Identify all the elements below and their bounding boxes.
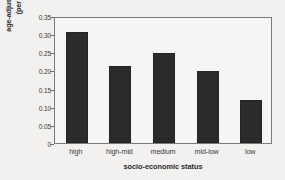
y-axis-tick-label: 0.05 bbox=[30, 122, 51, 129]
bar bbox=[66, 32, 88, 143]
y-axis-tick-label: 0.20 bbox=[30, 68, 51, 75]
bar bbox=[240, 100, 262, 143]
y-axis-title-line-2: (per 100,000) bbox=[14, 0, 24, 48]
x-axis-title: socio-economic status bbox=[54, 162, 272, 171]
y-axis-tick-label: 0.10 bbox=[30, 104, 51, 111]
bar bbox=[153, 53, 175, 143]
y-axis-tick-label: 0.35 bbox=[30, 14, 51, 21]
bar bbox=[109, 66, 131, 143]
y-axis-tick-label: 0.15 bbox=[30, 86, 51, 93]
x-axis-tick-label: medium bbox=[151, 147, 176, 156]
y-axis-tick-labels: 0.350.300.250.200.150.100.050 bbox=[30, 0, 51, 180]
x-axis-tick-labels: highhigh-midmediummid-lowlow bbox=[54, 147, 272, 159]
plot-area bbox=[54, 17, 272, 144]
y-axis-title-line-1: age-adjusted incidence bbox=[4, 0, 14, 48]
x-axis-tick-label: mid-low bbox=[195, 147, 219, 156]
y-axis-title: age-adjusted incidence (per 100,000) bbox=[4, 0, 30, 48]
x-axis-tick-label: high bbox=[69, 147, 82, 156]
x-axis-tick-label: low bbox=[245, 147, 256, 156]
y-axis-tick-mark bbox=[50, 144, 54, 145]
y-axis-tick-label: 0.25 bbox=[30, 50, 51, 57]
y-axis-tick-label: 0 bbox=[30, 141, 51, 148]
x-axis-tick-label: high-mid bbox=[106, 147, 133, 156]
y-axis-tick-label: 0.30 bbox=[30, 32, 51, 39]
bar bbox=[197, 71, 219, 143]
bars-layer bbox=[55, 18, 271, 143]
bar-chart-figure: age-adjusted incidence (per 100,000) 0.3… bbox=[0, 0, 285, 180]
